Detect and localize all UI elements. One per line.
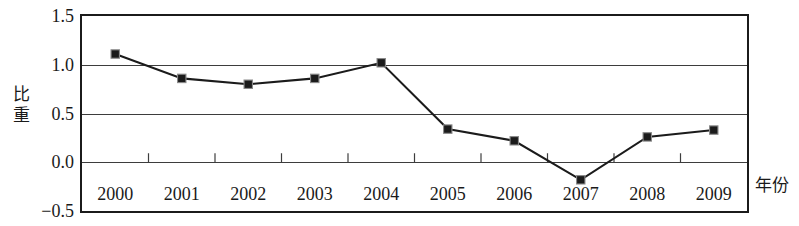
y-axis-tick-label: 1.5: [30, 7, 74, 25]
data-point-marker: [244, 80, 252, 88]
y-axis-tick-label: 0.0: [30, 153, 74, 171]
x-axis-title: 年份: [755, 176, 789, 196]
plot-area: 2000200120022003200420052006200720082009: [80, 14, 749, 213]
data-point-marker: [710, 126, 718, 134]
data-point-marker: [444, 125, 452, 133]
data-point-marker: [377, 59, 385, 67]
data-point-marker: [311, 74, 319, 82]
y-axis-tick-labels: 1.51.00.50.0−0.5: [26, 0, 74, 226]
y-axis-tick-label: 1.0: [30, 56, 74, 74]
y-axis-tick-label: −0.5: [30, 202, 74, 220]
data-point-marker: [577, 176, 585, 184]
data-point-marker: [178, 74, 186, 82]
data-point-marker: [111, 50, 119, 58]
data-point-marker: [510, 137, 518, 145]
data-point-marker: [643, 133, 651, 141]
series-layer: [82, 16, 747, 211]
y-axis-tick-label: 0.5: [30, 105, 74, 123]
line-chart: 比 重 1.51.00.50.0−0.5 2000200120022003200…: [0, 0, 799, 226]
